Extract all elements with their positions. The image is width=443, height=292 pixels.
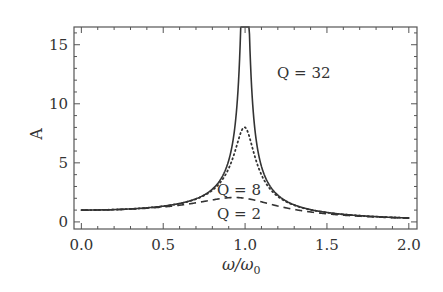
- label-q8: Q = 8: [217, 181, 261, 199]
- x-axis-label-subscript: 0: [253, 264, 260, 277]
- x-tick-label: 1.0: [233, 236, 257, 254]
- label-q2: Q = 2: [217, 205, 261, 223]
- x-tick-label: 2.0: [397, 236, 421, 254]
- resonance-chart: 0.00.51.01.52.0051015 Q = 32 Q = 8 Q = 2…: [0, 0, 443, 292]
- y-tick-label: 5: [58, 154, 68, 172]
- x-tick-label: 0.0: [69, 236, 93, 254]
- label-q32: Q = 32: [277, 64, 331, 82]
- x-tick-label: 1.5: [315, 236, 339, 254]
- y-axis-label: A: [27, 128, 46, 141]
- x-tick-label: 0.5: [151, 236, 175, 254]
- y-tick-label: 0: [58, 213, 68, 231]
- y-tick-label: 15: [49, 36, 68, 54]
- x-axis-label: ω/ω0: [222, 255, 260, 277]
- x-axis-label-main: ω/ω: [222, 255, 253, 274]
- y-tick-label: 10: [49, 95, 68, 113]
